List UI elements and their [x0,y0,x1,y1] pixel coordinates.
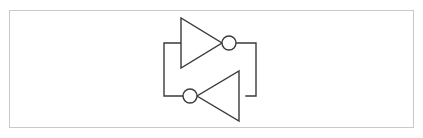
wire-left-feedback [164,43,183,96]
screenshot-root: — — —— ——— —— — —— [0,0,423,138]
figure-panel [9,10,414,128]
inverter-bottom-triangle-icon [197,71,239,121]
inverter-bottom-bubble-icon [183,89,197,103]
clipped-caption-strip: — — —— ——— —— — —— [0,0,423,7]
inverter-top-bubble-icon [222,36,236,50]
cross-coupled-inverter-schematic [10,11,413,127]
inverter-top-triangle-icon [181,18,222,68]
clipped-caption-text: — — —— ——— —— — —— [14,0,186,4]
